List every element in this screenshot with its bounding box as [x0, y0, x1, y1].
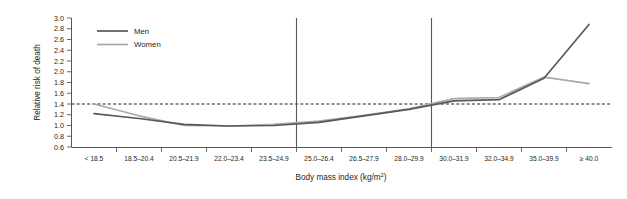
ytick-label: 1.8: [54, 78, 64, 87]
chart-legend: Men Women: [97, 27, 161, 50]
ytick-label: 1.2: [54, 110, 64, 119]
ytick-label: 2.0: [54, 67, 64, 76]
xtick-label: 32.0–34.9: [484, 155, 514, 162]
y-axis-tick-labels: 3.0 2.8 2.6 2.4 2.2 2.0 1.8 1.6 1.4 1.2 …: [54, 14, 64, 152]
ytick-label: 0.6: [54, 143, 64, 152]
xtick-label: 20.5–21.9: [169, 155, 199, 162]
x-axis-title-tail: ): [384, 173, 387, 182]
y-axis-title: Relative risk of death: [33, 44, 42, 121]
xtick-label: 26.5–27.9: [349, 155, 379, 162]
xtick-label: 30.0–31.9: [439, 155, 469, 162]
ytick-label: 1.0: [54, 121, 64, 130]
series-line-men: [94, 25, 589, 127]
xtick-label: 25.0–26.4: [304, 155, 334, 162]
relative-risk-line-chart: 3.0 2.8 2.6 2.4 2.2 2.0 1.8 1.6 1.4 1.2 …: [0, 0, 627, 199]
xtick-label: < 18.5: [85, 155, 104, 162]
xtick-label: 23.5–24.9: [259, 155, 289, 162]
x-axis-title: Body mass index (kg/m2): [295, 172, 386, 182]
ytick-label: 2.8: [54, 24, 64, 33]
ytick-label: 2.2: [54, 57, 64, 66]
x-axis-ticks: [117, 148, 567, 153]
xtick-label: 18.5–20.4: [124, 155, 154, 162]
ytick-label: 1.4: [54, 100, 64, 109]
ytick-label: 1.6: [54, 89, 64, 98]
x-axis-tick-labels: < 18.5 18.5–20.4 20.5–21.9 22.0–23.4 23.…: [85, 155, 599, 162]
y-axis-ticks: [67, 18, 72, 147]
xtick-label: ≥ 40.0: [580, 155, 599, 162]
x-axis-title-base: Body mass index (kg/m: [295, 173, 380, 182]
legend-label-men: Men: [134, 27, 149, 36]
ytick-label: 2.4: [54, 46, 64, 55]
ytick-label: 3.0: [54, 14, 64, 23]
xtick-label: 28.0–29.9: [394, 155, 424, 162]
xtick-label: 35.0–39.9: [529, 155, 559, 162]
xtick-label: 22.0–23.4: [214, 155, 244, 162]
ytick-label: 0.8: [54, 132, 64, 141]
legend-label-women: Women: [134, 40, 161, 49]
ytick-label: 2.6: [54, 35, 64, 44]
chart-figure: 3.0 2.8 2.6 2.4 2.2 2.0 1.8 1.6 1.4 1.2 …: [0, 0, 627, 199]
